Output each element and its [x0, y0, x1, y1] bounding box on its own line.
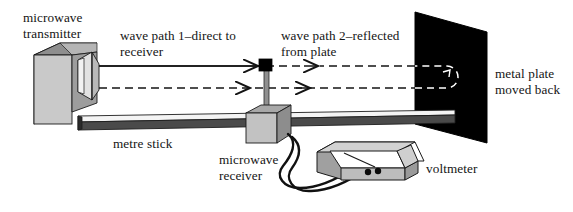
label-microwave-transmitter: microwave transmitter [23, 10, 82, 41]
label-metre-stick: metre stick [113, 136, 172, 152]
label-voltmeter: voltmeter [426, 161, 477, 177]
microwave-receiver-icon [246, 59, 291, 143]
microwave-transmitter-icon [34, 43, 99, 124]
voltmeter-icon [317, 142, 424, 180]
diagram-canvas: microwave transmitter wave path 1–direct… [0, 0, 573, 212]
wave-path-reflected-arrow-icon [99, 66, 458, 88]
label-metal-plate: metal plate moved back [495, 66, 560, 97]
label-microwave-receiver: microwave receiver [219, 152, 278, 183]
label-wave-path-1: wave path 1–direct to receiver [120, 28, 236, 59]
label-wave-path-2: wave path 2–reflected from plate [281, 28, 400, 59]
